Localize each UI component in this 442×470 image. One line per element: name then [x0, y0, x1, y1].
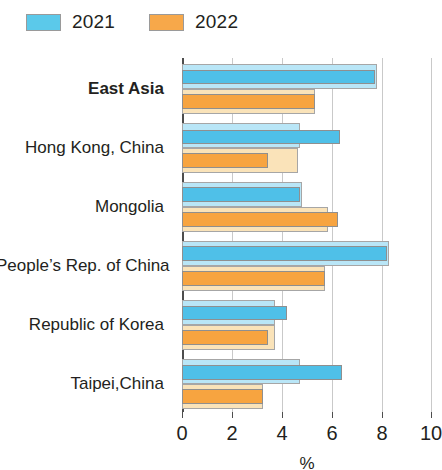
bar-group-east-asia [182, 64, 432, 114]
legend-swatch-orange-icon [149, 14, 184, 31]
legend-swatch-blue-icon [26, 14, 61, 31]
tick-label-6: 6 [326, 422, 337, 445]
bar-core-2021-taipei-china [182, 365, 342, 380]
legend-entry-2021: 2021 [26, 11, 115, 33]
chart-legend: 2021 2022 [26, 11, 238, 33]
legend-label-2022: 2022 [195, 11, 238, 33]
tick-label-2: 2 [226, 422, 237, 445]
bar-core-2022-peoples-rep-of-china [182, 271, 325, 286]
category-label-republic-of-korea: Republic of Korea [0, 316, 164, 335]
bar-group-hong-kong-china [182, 123, 432, 173]
category-axis-labels: East Asia Hong Kong, China Mongolia Peop… [0, 58, 172, 412]
bar-group-mongolia [182, 182, 432, 232]
bar-core-2022-hong-kong-china [182, 153, 268, 168]
tick-4 [282, 412, 283, 418]
bar-core-2021-east-asia [182, 70, 375, 84]
bar-core-2021-hong-kong-china [182, 130, 340, 144]
tick-2 [232, 412, 233, 418]
legend-entry-2022: 2022 [149, 11, 238, 33]
tick-10 [431, 412, 432, 418]
bar-core-2022-mongolia [182, 212, 338, 227]
bar-core-2022-east-asia [182, 94, 315, 109]
bar-group-peoples-rep-of-china [182, 241, 432, 291]
category-label-taipei-china: Taipei,China [0, 375, 164, 394]
tick-label-4: 4 [276, 422, 287, 445]
bar-chart: 2021 2022 East Asia Hong Kong, China Mon… [0, 0, 442, 470]
category-label-mongolia: Mongolia [0, 198, 164, 217]
legend-label-2021: 2021 [72, 11, 115, 33]
bar-core-2021-republic-of-korea [182, 306, 287, 320]
bar-group-republic-of-korea [182, 300, 432, 350]
x-axis-title: % [182, 454, 432, 470]
tick-8 [382, 412, 383, 418]
tick-0 [182, 412, 183, 418]
category-label-hong-kong-china: Hong Kong, China [0, 139, 164, 158]
tick-label-8: 8 [376, 422, 387, 445]
bar-core-2021-mongolia [182, 187, 300, 202]
plot-area: 0 2 4 6 8 10 % [182, 58, 432, 412]
tick-label-10: 10 [420, 422, 442, 445]
bar-core-2022-taipei-china [182, 389, 263, 404]
tick-6 [332, 412, 333, 418]
category-label-east-asia: East Asia [0, 80, 164, 99]
tick-label-0: 0 [176, 422, 187, 445]
category-label-peoples-rep-of-china: People’s Rep. of China [0, 257, 164, 276]
bar-core-2022-republic-of-korea [182, 330, 268, 345]
bar-core-2021-peoples-rep-of-china [182, 246, 387, 261]
bar-group-taipei-china [182, 359, 432, 409]
